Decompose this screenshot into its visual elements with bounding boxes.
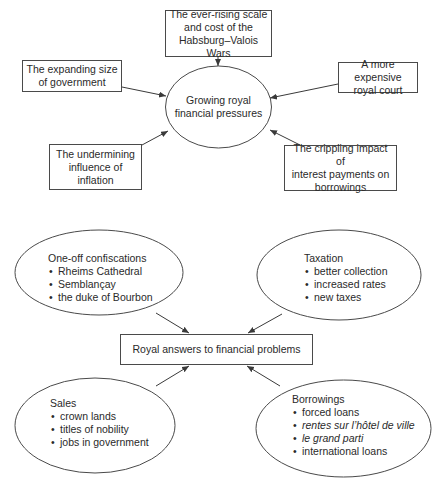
cause-text: The expanding size xyxy=(26,63,117,76)
list-item: le grand parti xyxy=(292,432,415,445)
sales-node: Sales crown lands titles of nobility job… xyxy=(50,397,149,449)
list-item: Rheims Cathedral xyxy=(48,265,153,278)
cause-box-interest: The crippling impact of interest payment… xyxy=(284,145,397,191)
list-item: better collection xyxy=(304,265,388,278)
confiscations-node: One-off confiscations Rheims Cathedral S… xyxy=(48,252,153,304)
arrow-government xyxy=(122,87,166,96)
arrow-sales xyxy=(156,366,189,386)
taxation-node: Taxation better collection increased rat… xyxy=(304,252,388,304)
borrowings-list: forced loans rentes sur l’hôtel de ville… xyxy=(292,406,415,458)
list-item: Semblançay xyxy=(48,278,153,291)
list-item: forced loans xyxy=(292,406,415,419)
cause-box-court: A more expensive royal court xyxy=(338,62,418,93)
borrowings-node: Borrowings forced loans rentes sur l’hôt… xyxy=(292,393,415,458)
cause-text: Habsburg–Valois Wars xyxy=(169,34,268,60)
cause-text: of government xyxy=(38,76,105,89)
cause-text: inflation xyxy=(77,174,113,187)
diagram: Growing royal financial pressures The ev… xyxy=(0,0,441,485)
list-item: international loans xyxy=(292,445,415,458)
royal-answers-box: Royal answers to financial problems xyxy=(120,334,313,365)
cause-text: The undermining xyxy=(56,148,135,161)
arrow-taxation xyxy=(248,314,282,333)
cause-text: The crippling impact of xyxy=(288,142,393,168)
center-line-2: financial pressures xyxy=(175,107,263,120)
center-line-1: Growing royal xyxy=(186,94,251,107)
confiscations-title: One-off confiscations xyxy=(48,252,153,265)
arrow-confiscations xyxy=(156,313,189,333)
list-item: new taxes xyxy=(304,291,388,304)
cause-text: royal court xyxy=(353,84,402,97)
arrow-court xyxy=(270,84,338,98)
taxation-list: better collection increased rates new ta… xyxy=(304,265,388,304)
cause-text: influence of xyxy=(69,161,123,174)
growing-pressures-node: Growing royal financial pressures xyxy=(165,66,272,148)
cause-box-inflation: The undermining influence of inflation xyxy=(49,144,142,190)
cause-text: The ever-rising scale xyxy=(170,8,267,21)
cause-box-government: The expanding size of government xyxy=(22,60,122,92)
list-item: the duke of Bourbon xyxy=(48,291,153,304)
sales-list: crown lands titles of nobility jobs in g… xyxy=(50,410,149,449)
borrowings-title: Borrowings xyxy=(292,393,415,406)
cause-text: borrowings xyxy=(315,181,366,194)
arrow-borrowings xyxy=(247,366,280,386)
list-item: increased rates xyxy=(304,278,388,291)
list-item: crown lands xyxy=(50,410,149,423)
cause-text: interest payments on xyxy=(292,168,389,181)
list-item: jobs in government xyxy=(50,436,149,449)
confiscations-list: Rheims Cathedral Semblançay the duke of … xyxy=(48,265,153,304)
royal-answers-label: Royal answers to financial problems xyxy=(132,343,300,356)
list-item: titles of nobility xyxy=(50,423,149,436)
cause-box-wars: The ever-rising scale and cost of the Ha… xyxy=(165,10,272,57)
taxation-title: Taxation xyxy=(304,252,388,265)
cause-text: A more expensive xyxy=(342,58,414,84)
cause-text: and cost of the xyxy=(184,21,253,34)
list-item: rentes sur l’hôtel de ville xyxy=(292,419,415,432)
sales-title: Sales xyxy=(50,397,149,410)
